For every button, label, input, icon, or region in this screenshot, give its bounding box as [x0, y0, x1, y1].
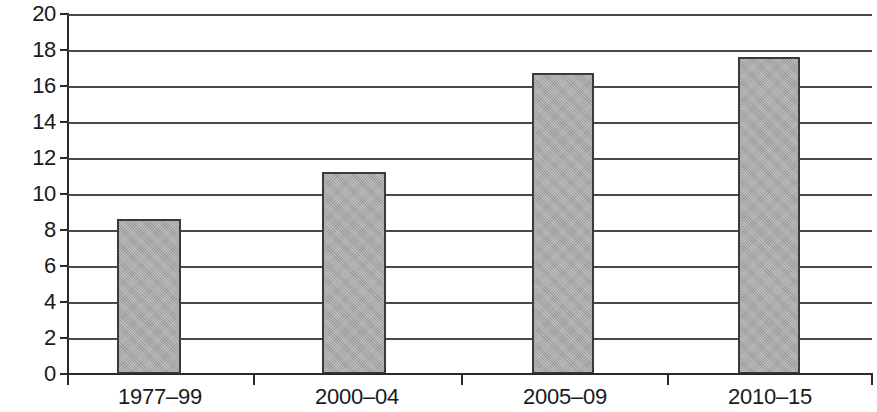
x-axis-line — [67, 373, 873, 375]
y-axis-tick-label: 10 — [4, 183, 56, 205]
y-axis-tick-label: 8 — [4, 219, 56, 241]
bar-2005-09 — [532, 73, 594, 374]
x-axis-label-1977-99: 1977–99 — [118, 385, 202, 409]
bar-2010-15 — [738, 57, 800, 374]
x-axis-tick — [253, 374, 255, 385]
y-axis-tick-label: 2 — [4, 327, 56, 349]
y-axis-tick-label: 18 — [4, 39, 56, 61]
y-axis-tick-label: 14 — [4, 111, 56, 133]
x-axis-label-2010-15: 2010–15 — [728, 385, 812, 409]
y-axis-tick-label: 20 — [4, 3, 56, 25]
bar-1977-99 — [117, 219, 181, 374]
bar-chart: 20 18 16 14 12 10 8 6 4 2 0 — [0, 0, 877, 412]
y-axis-tick-label: 6 — [4, 255, 56, 277]
y-axis-labels: 20 18 16 14 12 10 8 6 4 2 0 — [0, 0, 56, 412]
x-axis-tick — [871, 374, 873, 385]
x-axis-tick — [667, 374, 669, 385]
x-axis-tick — [67, 374, 69, 385]
y-axis-tick-label: 4 — [4, 291, 56, 313]
gridline — [68, 14, 872, 16]
bar-2000-04 — [322, 172, 386, 374]
y-axis-tick-label: 16 — [4, 75, 56, 97]
x-axis-label-2000-04: 2000–04 — [315, 385, 399, 409]
gridline — [68, 50, 872, 52]
x-axis-tick — [461, 374, 463, 385]
x-axis-label-2005-09: 2005–09 — [523, 385, 607, 409]
y-axis-tick-label: 12 — [4, 147, 56, 169]
y-axis-tick-label: 0 — [4, 363, 56, 385]
plot-area — [68, 14, 872, 374]
